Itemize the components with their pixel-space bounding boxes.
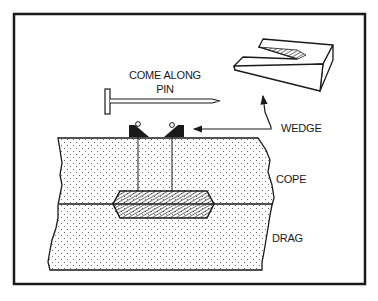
arrow-to-wedge-detail	[263, 96, 271, 127]
mold-cavity	[113, 191, 214, 218]
wedge-right-icon	[164, 123, 184, 137]
arrow-to-wedge-on-mold	[194, 127, 271, 129]
wedge-label: WEDGE	[281, 122, 322, 134]
wedge-left-icon	[129, 122, 149, 137]
foundry-mold-diagram	[0, 0, 378, 301]
cope-label: COPE	[276, 173, 306, 185]
drag-label: DRAG	[272, 232, 303, 244]
come-along-label-line2: PIN	[120, 83, 210, 95]
come-along-label-line1: COME ALONG	[120, 69, 210, 81]
wedge-detail-icon	[234, 39, 333, 91]
